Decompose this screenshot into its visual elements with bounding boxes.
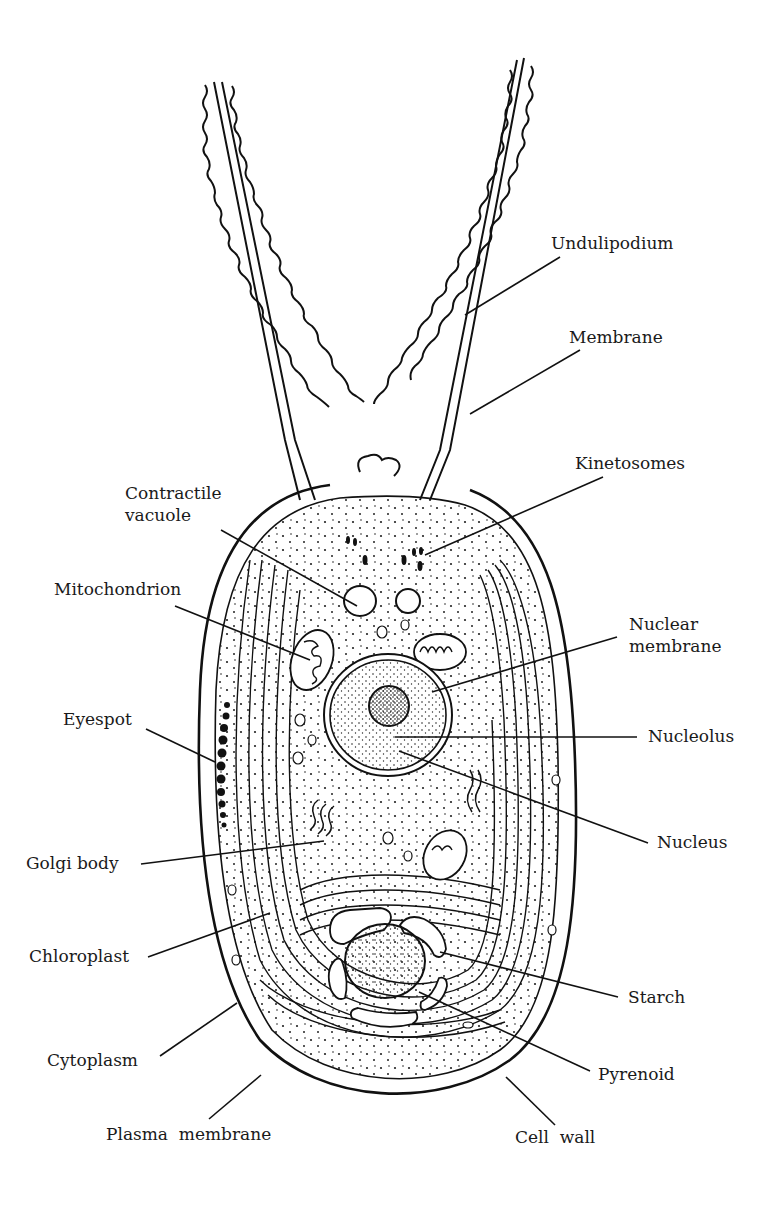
label-undulipodium: Undulipodium bbox=[551, 232, 674, 254]
undulipodium-left bbox=[203, 82, 364, 500]
label-kinetosomes: Kinetosomes bbox=[575, 452, 685, 474]
cell-body bbox=[199, 455, 576, 1094]
label-pyrenoid: Pyrenoid bbox=[598, 1063, 675, 1085]
label-plasma-membrane: Plasma membrane bbox=[106, 1123, 271, 1145]
label-nuclear-membrane: Nuclear membrane bbox=[629, 613, 721, 657]
label-golgi-body: Golgi body bbox=[26, 852, 119, 874]
label-cell-wall: Cell wall bbox=[515, 1126, 595, 1148]
label-chloroplast: Chloroplast bbox=[29, 945, 129, 967]
undulipodium-right bbox=[374, 58, 533, 500]
label-cytoplasm: Cytoplasm bbox=[47, 1049, 138, 1071]
leader-plasma-membrane bbox=[209, 1075, 261, 1119]
label-mitochondrion: Mitochondrion bbox=[54, 578, 181, 600]
leader-eyespot bbox=[146, 729, 215, 762]
label-contractile-vacuole: Contractile vacuole bbox=[125, 482, 222, 526]
cell-diagram bbox=[0, 0, 779, 1213]
leader-cytoplasm bbox=[160, 1003, 237, 1056]
label-eyespot: Eyespot bbox=[63, 708, 132, 730]
nucleus bbox=[324, 654, 452, 776]
nucleolus bbox=[369, 686, 409, 726]
leader-undulipodium bbox=[465, 257, 560, 315]
label-starch: Starch bbox=[628, 986, 685, 1008]
label-membrane: Membrane bbox=[569, 326, 663, 348]
contractile-vacuole-2 bbox=[396, 589, 420, 613]
label-nucleolus: Nucleolus bbox=[648, 725, 734, 747]
pyrenoid bbox=[345, 924, 425, 998]
label-nucleus: Nucleus bbox=[657, 831, 728, 853]
leader-membrane bbox=[470, 350, 580, 414]
leader-cell-wall bbox=[506, 1077, 555, 1125]
